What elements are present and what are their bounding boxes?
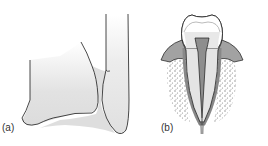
panel-a: (a) xyxy=(0,0,134,146)
panel-label-a: (a) xyxy=(2,122,14,133)
panel-label-b: (b) xyxy=(161,122,173,133)
tooth-illustration xyxy=(134,0,268,146)
ligament-joint-illustration xyxy=(0,0,134,146)
panel-b: (b) xyxy=(134,0,268,146)
